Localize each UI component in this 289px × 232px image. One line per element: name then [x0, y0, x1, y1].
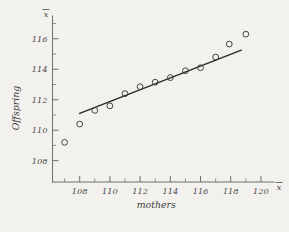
x-tick-label: 108	[72, 186, 88, 196]
x-tick-label: 120	[253, 186, 269, 196]
x-axis-corner-symbol: x	[277, 183, 282, 192]
y-axis-title: Offspring	[10, 86, 21, 131]
x-tick-label: 112	[132, 186, 148, 196]
x-axis-title: mothers	[137, 199, 176, 210]
y-tick-label: 116	[32, 34, 48, 44]
y-tick-label: 110	[32, 125, 48, 135]
x-tick-label: 118	[223, 186, 239, 196]
plot-canvas: 108110112114116 108110112114116118120 Of…	[0, 0, 289, 232]
y-axis-corner-symbol: x	[44, 10, 49, 19]
y-tick-label: 114	[32, 64, 48, 74]
y-tick-label: 108	[32, 156, 48, 166]
scatter-plot-figure: 108110112114116 108110112114116118120 Of…	[0, 0, 289, 232]
x-tick-label: 116	[193, 186, 209, 196]
y-axis-title-group: Offspring	[10, 86, 21, 131]
x-tick-label: 110	[102, 186, 118, 196]
y-tick-label: 112	[32, 95, 48, 105]
x-tick-label: 114	[162, 186, 178, 196]
